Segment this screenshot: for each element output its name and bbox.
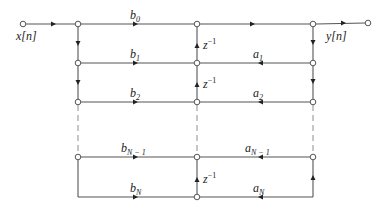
delay-label-1: z−1 [203, 38, 216, 51]
coef-aN: aN [253, 182, 264, 197]
input-node [20, 21, 26, 27]
delay-label-2: z−1 [203, 77, 216, 90]
coef-b0: b0 [130, 9, 140, 24]
output-node [365, 20, 371, 26]
coef-bN: bN [130, 182, 141, 197]
coef-b2: b2 [130, 87, 140, 102]
arrowheads [51, 21, 346, 200]
coef-bN-1: bN − 1 [121, 142, 146, 157]
input-label: x[n] [16, 30, 37, 42]
coef-a2: a2 [253, 87, 263, 102]
output-label: y[n] [326, 30, 347, 42]
coef-a1: a1 [253, 48, 263, 63]
output-branch [316, 23, 365, 24]
delay-label-n: z−1 [203, 172, 216, 185]
coef-b1: b1 [130, 48, 140, 63]
coef-aN-1: aN − 1 [245, 142, 270, 157]
